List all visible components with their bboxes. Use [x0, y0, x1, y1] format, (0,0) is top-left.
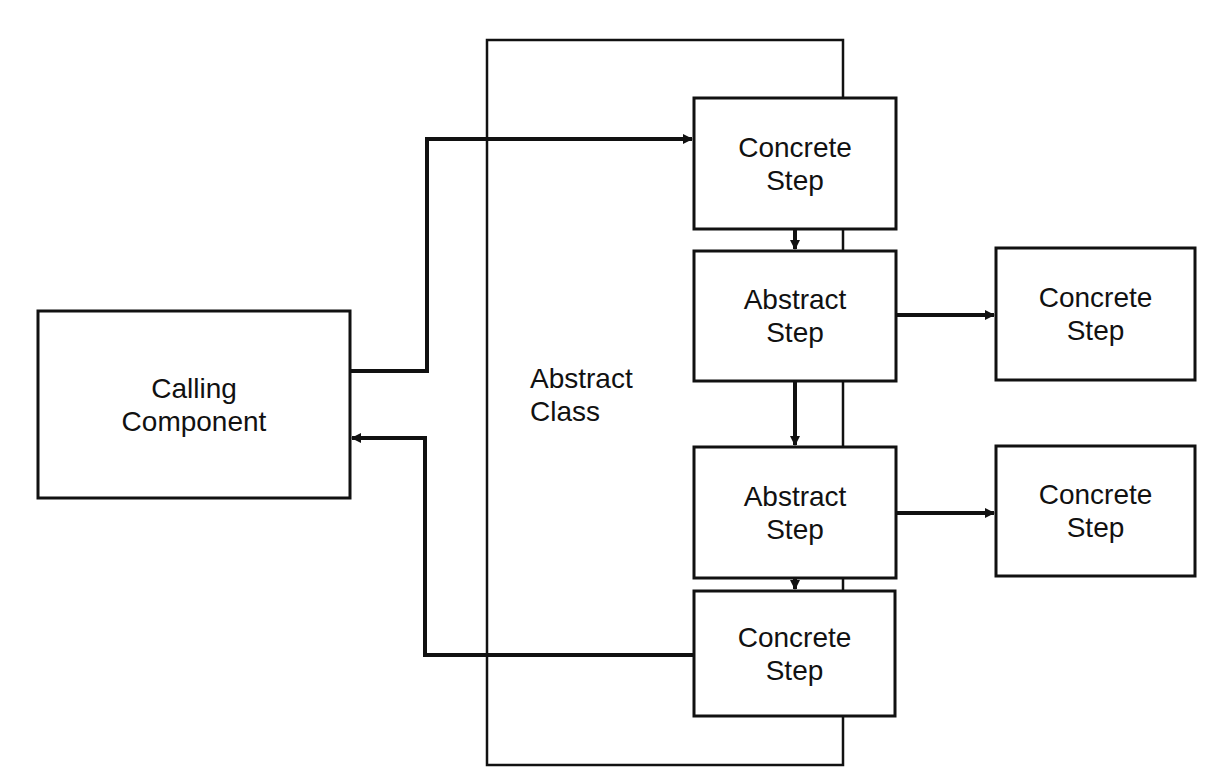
label-line: Component: [122, 405, 267, 438]
label-line: Step: [1039, 511, 1153, 544]
calling-component-label: CallingComponent: [38, 311, 350, 498]
label-line: Concrete: [1039, 478, 1153, 511]
step1-label: ConcreteStep: [694, 98, 896, 229]
label-line: Class: [530, 395, 633, 428]
impl2-label: ConcreteStep: [996, 248, 1195, 380]
label-line: Concrete: [1039, 281, 1153, 314]
label-line: Concrete: [738, 131, 852, 164]
label-line: Step: [738, 654, 852, 687]
label-line: Abstract: [744, 283, 847, 316]
return-arrow: [352, 438, 694, 655]
label-line: Step: [1039, 314, 1153, 347]
label-line: Abstract: [530, 362, 633, 395]
abstract-class-label: AbstractClass: [530, 330, 680, 460]
impl3-label: ConcreteStep: [996, 446, 1195, 576]
label-line: Step: [738, 164, 852, 197]
label-line: Calling: [122, 372, 267, 405]
step3-label: AbstractStep: [694, 447, 896, 578]
label-line: Step: [744, 513, 847, 546]
label-line: Step: [744, 316, 847, 349]
step2-label: AbstractStep: [694, 251, 896, 381]
label-line: Abstract: [744, 480, 847, 513]
step4-label: ConcreteStep: [694, 591, 895, 716]
label-line: Concrete: [738, 621, 852, 654]
